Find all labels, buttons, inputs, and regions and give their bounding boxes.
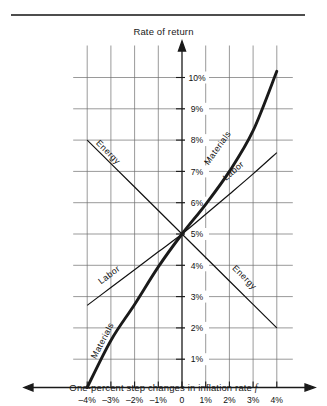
horizontal-grid-lines [73,78,293,360]
y-tick-label: 4% [191,261,204,271]
figure-container: Rate of return 1%2%3%4%5%6%7%8%9%10% –4%… [0,0,327,406]
curve-label-energy: Energy [230,263,259,292]
x-tick-label: 3% [247,395,260,405]
chart-plot-area: 1%2%3%4%5%6%7%8%9%10% –4%–3%–2%–1%01%2%3… [0,0,327,406]
y-tick-label: 8% [191,135,204,145]
curve-label-labor: Labor [221,159,246,183]
y-tick-label: 3% [191,292,204,302]
x-tick-label: –1% [150,395,168,405]
x-tick-label: –4% [79,395,97,405]
curve-label-energy: Energy [94,138,123,167]
y-tick-label: 5% [191,229,204,239]
y-tick-label: 10% [188,73,206,83]
y-tick-label: 2% [191,323,204,333]
x-axis-caption-text: One-percent step changes in inflation ra… [69,382,254,393]
y-tick-label: 7% [191,167,204,177]
y-tick-label: 6% [191,198,204,208]
x-axis-caption: One-percent step changes in inflation ra… [0,382,327,393]
axis-lines [24,41,315,391]
y-tick-label: 1% [191,354,204,364]
x-tick-label: –2% [126,395,144,405]
y-tick-label: 9% [191,104,204,114]
x-tick-label: 4% [271,395,284,405]
x-tick-labels: –4%–3%–2%–1%01%2%3%4% [79,395,284,405]
x-axis-caption-symbol: f [255,383,258,393]
x-tick-label: 2% [223,395,236,405]
x-tick-label: 1% [199,395,212,405]
x-tick-label: –3% [102,395,120,405]
x-tick-label: 0 [180,395,185,405]
